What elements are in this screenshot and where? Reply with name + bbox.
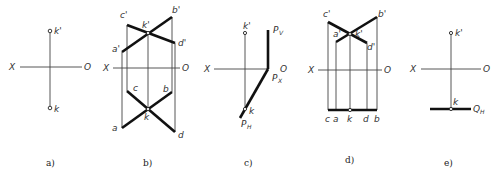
- label-b-prime: b': [172, 5, 180, 15]
- axis-label-x: X: [8, 62, 16, 72]
- label-c-prime: c': [323, 9, 330, 19]
- caption-a: a): [46, 158, 55, 168]
- point-k-front: [243, 31, 246, 34]
- label-d-prime: d': [367, 42, 375, 52]
- axis-label-o: O: [280, 64, 287, 74]
- label-k-prime: k': [355, 29, 363, 39]
- panel-a: X O k' k a): [8, 26, 91, 168]
- label-a-prime: a': [333, 29, 341, 39]
- caption-c: c): [244, 158, 253, 168]
- axis-label-x: X: [102, 63, 110, 73]
- label-a: a: [112, 123, 118, 133]
- label-c-prime: c': [120, 10, 127, 20]
- point-k-top: [146, 107, 149, 110]
- line-cd-top: [127, 91, 175, 132]
- panel-c: X O k' k P V P X P H c): [203, 21, 287, 168]
- label-pv-sub: V: [279, 29, 284, 36]
- axis-label-o: O: [384, 65, 391, 75]
- point-k-top: [48, 106, 52, 110]
- label-c: c: [325, 114, 330, 124]
- label-k: k: [453, 97, 459, 107]
- label-k-prime: k': [142, 20, 150, 30]
- caption-e: e): [444, 158, 453, 168]
- label-b: b: [374, 114, 380, 124]
- caption-b: b): [143, 158, 152, 168]
- label-qh-sub: H: [480, 108, 485, 115]
- label-k: k: [54, 104, 60, 114]
- label-d: d: [363, 114, 369, 124]
- label-k-prime: k': [455, 28, 463, 38]
- label-k-prime: k': [54, 26, 62, 36]
- label-k: k: [144, 112, 150, 122]
- label-k-prime: k': [243, 21, 251, 31]
- label-k: k: [347, 114, 353, 124]
- axis-label-o: O: [182, 63, 189, 73]
- point-k-top: [449, 107, 452, 110]
- caption-d: d): [345, 155, 354, 165]
- point-k-front: [349, 33, 352, 36]
- label-k: k: [249, 106, 255, 116]
- panel-d: X O c' b' a' k' d' c a k d b d): [307, 9, 391, 165]
- line-cd-front: [127, 25, 175, 43]
- label-c: c: [133, 83, 138, 93]
- label-b: b: [163, 84, 169, 94]
- point-k-top: [348, 108, 351, 111]
- point-k-front: [449, 31, 452, 34]
- projection-diagram: X O k' k a) X O c' k' b' a' d' c b k a: [0, 0, 493, 178]
- point-k-top: [243, 107, 246, 110]
- label-ph-sub: H: [247, 123, 252, 130]
- point-k-front: [48, 29, 52, 33]
- axis-label-x: X: [203, 64, 211, 74]
- label-a-prime: a': [112, 44, 120, 54]
- panel-b: X O c' k' b' a' d' c b k a d b): [102, 5, 189, 168]
- label-d-prime: d': [178, 38, 186, 48]
- axis-label-x: X: [307, 65, 315, 75]
- label-a: a: [333, 114, 339, 124]
- axis-label-o: O: [84, 62, 91, 72]
- point-k-front: [146, 31, 149, 34]
- axis-label-x: X: [409, 64, 417, 74]
- label-b-prime: b': [378, 9, 386, 19]
- label-d: d: [178, 130, 184, 140]
- label-px-sub: X: [277, 77, 283, 84]
- panel-e: X O k' k Q H e): [409, 28, 490, 168]
- axis-label-o: O: [483, 64, 490, 74]
